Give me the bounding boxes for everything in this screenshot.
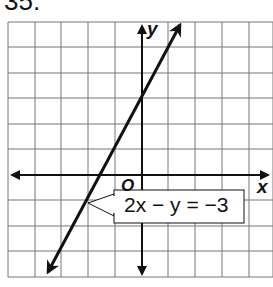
y-axis-label: y: [147, 18, 158, 40]
coordinate-graph: [0, 0, 273, 287]
x-axis-label: x: [257, 176, 268, 198]
equation-label: 2x − y = −3: [124, 193, 229, 217]
grid: [8, 22, 273, 277]
